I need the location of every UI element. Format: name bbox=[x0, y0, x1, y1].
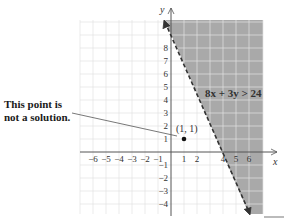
svg-text:8: 8 bbox=[164, 43, 169, 53]
footer-bar bbox=[264, 216, 284, 218]
x-axis-label: x bbox=[272, 156, 278, 167]
svg-text:5: 5 bbox=[164, 82, 169, 92]
svg-text:5: 5 bbox=[234, 154, 239, 164]
annotation-pointer bbox=[72, 113, 177, 136]
svg-text:−2: −2 bbox=[158, 173, 168, 183]
annotation-line-2: not a solution. bbox=[4, 111, 70, 124]
svg-text:3: 3 bbox=[164, 108, 169, 118]
svg-text:−3: −3 bbox=[158, 186, 168, 196]
annotation-line-1: This point is bbox=[4, 98, 70, 111]
solution-region bbox=[165, 20, 263, 214]
svg-text:−4: −4 bbox=[114, 154, 124, 164]
svg-text:6: 6 bbox=[164, 69, 169, 79]
svg-text:6: 6 bbox=[247, 154, 252, 164]
svg-text:−3: −3 bbox=[127, 154, 137, 164]
svg-text:−6: −6 bbox=[88, 154, 98, 164]
svg-text:4: 4 bbox=[164, 95, 169, 105]
svg-text:7: 7 bbox=[164, 56, 169, 66]
svg-text:−1: −1 bbox=[158, 160, 168, 170]
svg-text:−2: −2 bbox=[140, 154, 150, 164]
inequality-label: 8x + 3y > 24 bbox=[205, 87, 262, 99]
test-point-label: (1, 1) bbox=[176, 123, 198, 135]
svg-text:1: 1 bbox=[182, 154, 187, 164]
y-axis-label: y bbox=[159, 4, 165, 15]
svg-text:−5: −5 bbox=[101, 154, 111, 164]
svg-text:1: 1 bbox=[164, 134, 169, 144]
svg-text:−4: −4 bbox=[158, 199, 168, 209]
svg-text:2: 2 bbox=[164, 121, 169, 131]
svg-text:2: 2 bbox=[195, 154, 200, 164]
annotation-text: This point is not a solution. bbox=[4, 98, 70, 124]
test-point bbox=[182, 137, 187, 142]
boundary-arrow-bottom-icon bbox=[244, 207, 251, 215]
